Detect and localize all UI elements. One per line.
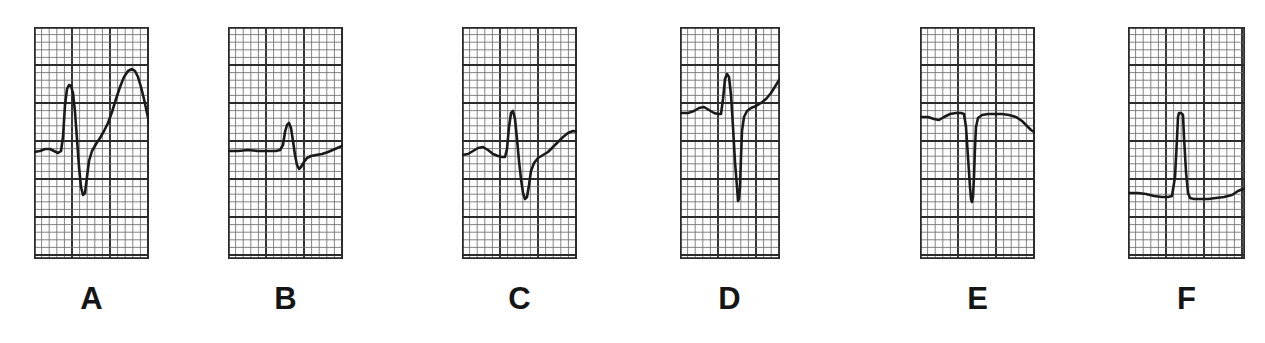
ecg-panel-d: [680, 27, 780, 259]
ecg-figure: ABCDEF: [0, 0, 1265, 343]
ecg-grid: [1128, 27, 1245, 259]
ecg-panel-c: [462, 27, 577, 259]
ecg-grid-border: [35, 28, 148, 258]
ecg-trace: [228, 123, 343, 169]
ecg-grid-border: [463, 28, 576, 258]
ecg-grid-border: [921, 28, 1034, 258]
ecg-grid: [920, 27, 1035, 259]
panel-label-e: E: [920, 283, 1035, 314]
ecg-panel-b: [228, 27, 343, 259]
panel-label-f: F: [1128, 283, 1245, 314]
ecg-trace: [462, 111, 577, 199]
panel-label-b: B: [228, 283, 343, 314]
ecg-grid: [34, 27, 149, 259]
ecg-grid: [680, 27, 780, 259]
ecg-grid: [228, 27, 343, 259]
ecg-panel-e: [920, 27, 1035, 259]
ecg-trace: [920, 113, 1035, 202]
panel-label-c: C: [462, 283, 577, 314]
ecg-grid: [462, 27, 577, 259]
ecg-panel-a: [34, 27, 149, 259]
ecg-grid-border: [229, 28, 342, 258]
panel-label-a: A: [34, 283, 149, 314]
ecg-panel-f: [1128, 27, 1245, 259]
panel-label-d: D: [672, 283, 787, 314]
